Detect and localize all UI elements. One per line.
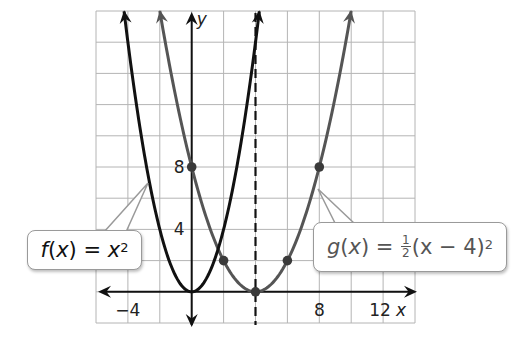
data-point [251,287,261,297]
f-callout-pointer [104,183,148,232]
data-point [219,256,229,266]
tick-labels: −481248xy [115,9,407,320]
g-callout-eq: = [369,235,400,259]
f-callout-name: f [41,238,48,262]
g-callout-fraction: 12 [401,234,411,259]
f-callout-eq: = [77,238,108,262]
f-callout-exp: 2 [120,240,128,255]
f-callout-arg: (x) [48,238,77,262]
data-point [187,162,197,172]
y-axis-label: y [196,9,208,29]
data-point [283,256,293,266]
y-tick-label: 4 [174,219,185,239]
f-callout-base: x [108,238,120,262]
f-callout: f(x) = x2 [27,230,142,270]
g-callout: g(x) = 12(x − 4)2 [313,222,507,272]
g-callout-pointer [318,189,356,225]
x-axis-label: x [395,300,407,320]
g-callout-paren: (x − 4) [412,235,485,259]
g-callout-name: g [327,235,340,259]
x-tick-label: 8 [314,300,325,320]
g-callout-exp: 2 [485,237,493,252]
coordinate-plane: −481248xy [0,0,524,344]
x-tick-label: −4 [115,300,140,320]
g-callout-arg: (x) [340,235,369,259]
y-tick-label: 8 [174,157,185,177]
data-point [315,162,325,172]
x-tick-label: 12 [369,300,391,320]
